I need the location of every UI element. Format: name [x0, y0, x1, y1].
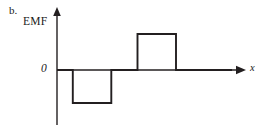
- y-axis-title-label: EMF: [23, 16, 47, 28]
- panel-letter-label: b.: [9, 5, 17, 16]
- x-axis-arrowhead-icon: [236, 66, 246, 74]
- x-axis-title-label: x: [250, 63, 255, 74]
- emf-waveform-figure: b. EMF 0 x: [0, 0, 270, 130]
- y-axis: [53, 7, 61, 125]
- y-axis-arrowhead-icon: [53, 7, 61, 16]
- emf-trace: [57, 34, 232, 103]
- zero-tick-label: 0: [41, 63, 47, 75]
- emf-step-waveform: [57, 34, 232, 103]
